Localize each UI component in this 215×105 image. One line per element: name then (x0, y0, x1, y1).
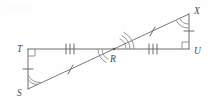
geometry-canvas: T S R U X (0, 0, 215, 105)
vertex-label-X: X (193, 6, 201, 16)
vertex-dot-R (113, 48, 116, 51)
right-angle-mark-T (28, 49, 35, 56)
vertex-label-U: U (194, 46, 202, 56)
vertex-label-S: S (17, 88, 22, 98)
right-angle-mark-U (182, 42, 189, 49)
angle-arc-X (180, 19, 189, 24)
vertex-label-R: R (109, 54, 116, 64)
vertex-label-T: T (17, 44, 23, 54)
angle-arc-R-right (120, 39, 126, 49)
angle-arc-R-left (102, 49, 108, 59)
geometry-diagram: T S R U X (0, 0, 215, 105)
segment-SX-transversal (28, 14, 189, 89)
angle-arc-R-right-outer2 (123, 32, 134, 49)
